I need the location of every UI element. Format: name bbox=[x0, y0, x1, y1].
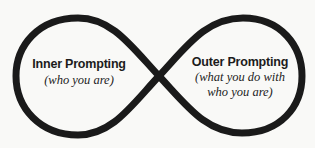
infinity-diagram: Inner Prompting (who you are) Outer Prom… bbox=[0, 0, 315, 148]
inner-prompting-subtitle: (who you are) bbox=[30, 74, 128, 87]
outer-prompting-title: Outer Prompting bbox=[190, 55, 290, 69]
outer-prompting-label: Outer Prompting (what you do with who yo… bbox=[190, 55, 290, 99]
outer-prompting-subtitle-line-2: who you are) bbox=[190, 86, 290, 99]
inner-prompting-label: Inner Prompting (who you are) bbox=[30, 57, 128, 87]
outer-prompting-subtitle-line-1: (what you do with bbox=[190, 71, 290, 84]
inner-prompting-title: Inner Prompting bbox=[30, 57, 128, 71]
